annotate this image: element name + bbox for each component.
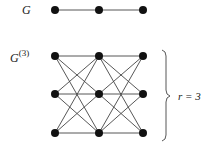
vertex [95,90,103,98]
vertex [51,52,59,60]
diagram-canvas: G G(3) r = 3 [0,0,210,154]
label-r: r = 3 [178,90,201,102]
vertex [95,6,103,14]
vertex [95,52,103,60]
vertex [139,6,147,14]
vertex [139,129,147,137]
vertex [139,52,147,60]
brace [162,50,170,141]
vertex [51,6,59,14]
vertex [51,129,59,137]
vertex [51,90,59,98]
vertex [95,129,103,137]
label-g3: G(3) [10,48,29,65]
vertex [139,90,147,98]
label-g: G [22,3,31,17]
